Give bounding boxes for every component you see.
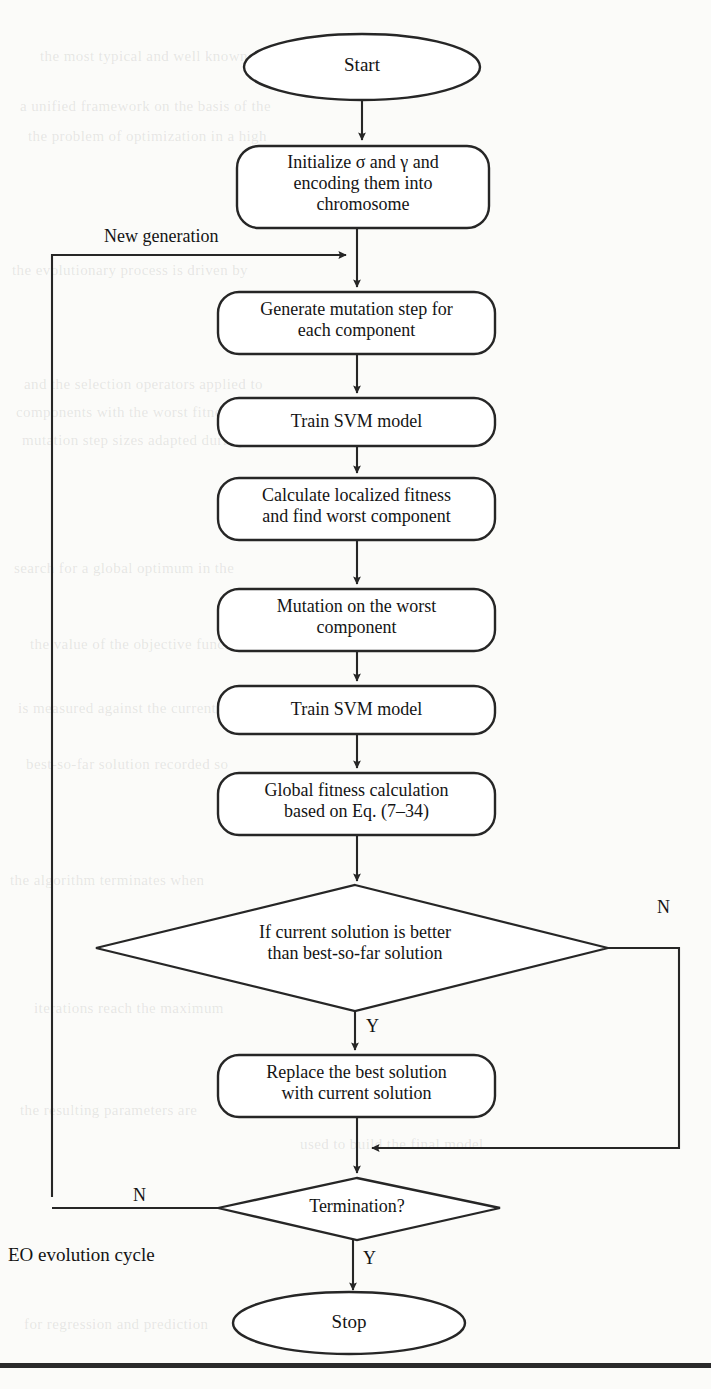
node-train-svm-2-shape bbox=[218, 686, 495, 734]
bottom-divider-rule bbox=[0, 1363, 711, 1368]
flowchart-canvas bbox=[0, 0, 711, 1389]
node-decision-better-shape bbox=[96, 885, 608, 1011]
edge-label-decision-better-no: N bbox=[657, 897, 670, 918]
edge-label-termination-no: N bbox=[133, 1185, 146, 1206]
node-decision-termination-shape bbox=[218, 1178, 500, 1240]
node-calculate-local-shape bbox=[218, 478, 495, 540]
edge-label-decision-better-yes: Y bbox=[366, 1016, 379, 1037]
node-replace-best-shape bbox=[218, 1055, 495, 1117]
node-generate-mutation-shape bbox=[218, 292, 495, 354]
flowchart-figure: the most typical and well known among th… bbox=[0, 0, 711, 1389]
node-mutation-worst-shape bbox=[218, 589, 495, 651]
edge-label-new-generation: New generation bbox=[104, 226, 218, 247]
edge-label-termination-yes: Y bbox=[363, 1248, 376, 1269]
node-stop-shape bbox=[233, 1292, 465, 1354]
node-start-shape bbox=[244, 34, 480, 100]
node-train-svm-1-shape bbox=[218, 398, 495, 446]
node-global-fitness-shape bbox=[218, 773, 495, 835]
figure-caption-label: EO evolution cycle bbox=[8, 1244, 155, 1266]
node-initialize-shape bbox=[237, 146, 489, 228]
